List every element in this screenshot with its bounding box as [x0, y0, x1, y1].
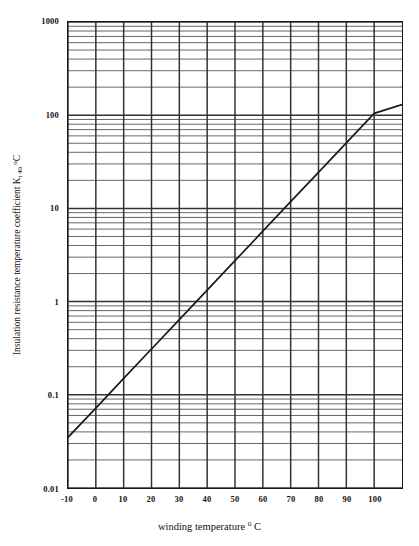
x-tick-label: 30	[175, 494, 184, 504]
chart-figure: 0.010.11101001000 Insulation resistance …	[0, 0, 419, 546]
y-tick-label: 1	[55, 297, 59, 307]
x-axis-tick-labels: -100102030405060708090100	[0, 494, 419, 510]
x-axis-title: winding temperature o C	[0, 519, 419, 532]
degree-symbol-icon: o	[248, 519, 252, 528]
y-tick-label: 0.1	[48, 390, 59, 400]
grid-lines	[68, 22, 402, 488]
x-tick-label: 70	[287, 494, 296, 504]
x-tick-label: 10	[119, 494, 128, 504]
x-tick-label: -10	[61, 494, 73, 504]
x-tick-label: 90	[343, 494, 352, 504]
x-tick-label: 100	[368, 494, 381, 504]
x-tick-label: 80	[315, 494, 324, 504]
x-tick-label: 60	[259, 494, 268, 504]
vertical-gridlines	[68, 22, 374, 488]
y-axis-title: Insulation resistance temperature coeffi…	[11, 155, 23, 355]
y-tick-label: 0.01	[43, 484, 59, 494]
y-tick-label: 1000	[41, 16, 59, 26]
degree-symbol-icon: o	[11, 161, 18, 164]
y-tick-label: 10	[50, 203, 59, 213]
x-tick-label: 20	[147, 494, 156, 504]
y-tick-label: 100	[46, 110, 59, 120]
x-tick-label: 50	[231, 494, 240, 504]
y-axis-subscript: t 40	[16, 167, 23, 177]
plot-area	[67, 21, 403, 489]
x-tick-label: 40	[203, 494, 212, 504]
x-tick-label: 0	[93, 494, 97, 504]
